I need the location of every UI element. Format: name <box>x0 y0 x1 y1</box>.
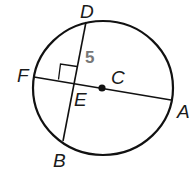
segment-length-de: 5 <box>85 48 94 67</box>
circle-figure: D F C E A B 5 <box>0 0 191 190</box>
center-point <box>98 84 105 91</box>
label-b: B <box>53 150 66 171</box>
right-angle-mark <box>59 64 78 80</box>
chord-db <box>63 22 86 141</box>
label-d: D <box>80 1 94 22</box>
label-a: A <box>176 101 190 122</box>
geometry-diagram: D F C E A B 5 <box>0 0 191 190</box>
label-c: C <box>111 67 125 88</box>
label-e: E <box>74 89 87 110</box>
label-f: F <box>17 65 30 86</box>
